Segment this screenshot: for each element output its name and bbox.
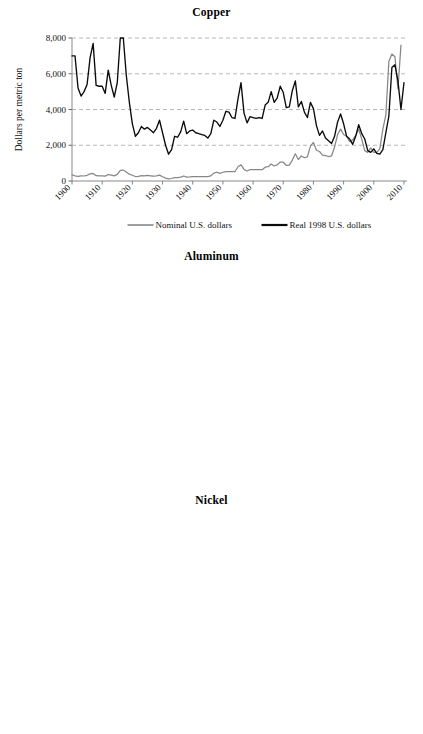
x-tick-label: 2000 [354, 182, 374, 202]
y-tick-label: 6,000 [46, 69, 67, 79]
legend-label-nominal: Nominal U.S. dollars [156, 220, 233, 230]
x-tick-label: 1950 [204, 182, 224, 202]
plot-area-nickel: Dollars per metric ton05,00010,00015,000… [0, 488, 423, 732]
plot-area-copper: Dollars per metric ton02,0004,0006,0008,… [0, 0, 423, 244]
figure-page: Copper Dollars per metric ton02,0004,000… [0, 0, 423, 734]
x-tick-label: 2010 [385, 182, 405, 202]
y-tick-label: 4,000 [46, 105, 67, 115]
x-tick-label: 1970 [264, 182, 284, 202]
chart-panel-copper: Copper Dollars per metric ton02,0004,000… [0, 0, 423, 244]
chart-panel-nickel: Nickel Dollars per metric ton05,00010,00… [0, 488, 423, 732]
x-tick-label: 1940 [173, 182, 193, 202]
x-tick-label: 1900 [53, 182, 73, 202]
chart-legend: Nominal U.S. dollarsReal 1998 U.S. dolla… [128, 220, 372, 230]
legend-label-real: Real 1998 U.S. dollars [290, 220, 372, 230]
chart-panel-aluminum: Aluminum Dollars per metric ton05,00010,… [0, 244, 423, 488]
x-tick-label: 1980 [294, 182, 314, 202]
x-tick-label: 1930 [143, 182, 163, 202]
plot-area-aluminum: Dollars per metric ton05,00010,00015,000… [0, 244, 423, 488]
y-tick-label: 8,000 [46, 33, 67, 43]
x-tick-label: 1990 [324, 182, 344, 202]
chart-svg-nickel: Dollars per metric ton05,00010,00015,000… [0, 488, 423, 732]
x-tick-label: 1960 [234, 182, 254, 202]
x-tick-label: 1920 [113, 182, 133, 202]
x-tick-label: 1910 [83, 182, 103, 202]
y-axis-label: Dollars per metric ton [14, 67, 24, 151]
y-tick-label: 2,000 [46, 140, 67, 150]
chart-svg-aluminum: Dollars per metric ton05,00010,00015,000… [0, 244, 423, 488]
chart-svg-copper: Dollars per metric ton02,0004,0006,0008,… [0, 0, 423, 244]
